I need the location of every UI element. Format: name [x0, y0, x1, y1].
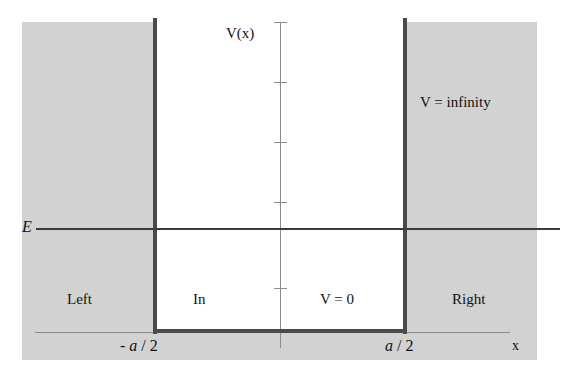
x-tick-suffix: / 2: [393, 337, 413, 354]
x-tick-label-positive-half-a: a / 2: [385, 338, 413, 354]
x-tick-suffix: / 2: [137, 337, 157, 354]
region-label-in: In: [193, 292, 206, 307]
potential-well-diagram: V(x) V = infinity E Left In V = 0 Right …: [0, 0, 566, 373]
x-tick-prefix: -: [120, 337, 129, 354]
potential-wall-left: [153, 18, 157, 334]
region-label-left: Left: [67, 292, 92, 307]
region-label-right: Right: [452, 292, 485, 307]
y-axis-line: [280, 22, 281, 348]
forbidden-region-left-shading: [22, 22, 157, 360]
energy-level-label: E: [22, 219, 32, 235]
potential-wall-right: [403, 18, 407, 334]
forbidden-region-right-shading: [404, 22, 537, 360]
y-axis-tick: [274, 142, 287, 143]
y-axis-tick: [274, 22, 287, 23]
y-axis-tick: [274, 288, 287, 289]
x-tick-label-negative-half-a: - a / 2: [120, 338, 158, 354]
x-tick-variable: a: [385, 337, 393, 354]
well-floor-line: [153, 329, 407, 333]
y-axis-label: V(x): [226, 26, 254, 41]
y-axis-tick: [274, 82, 287, 83]
v-infinity-label: V = infinity: [420, 95, 491, 110]
x-axis-label: x: [512, 339, 519, 353]
v-zero-label: V = 0: [320, 292, 354, 307]
y-axis-tick: [274, 202, 287, 203]
energy-level-line: [36, 228, 560, 230]
